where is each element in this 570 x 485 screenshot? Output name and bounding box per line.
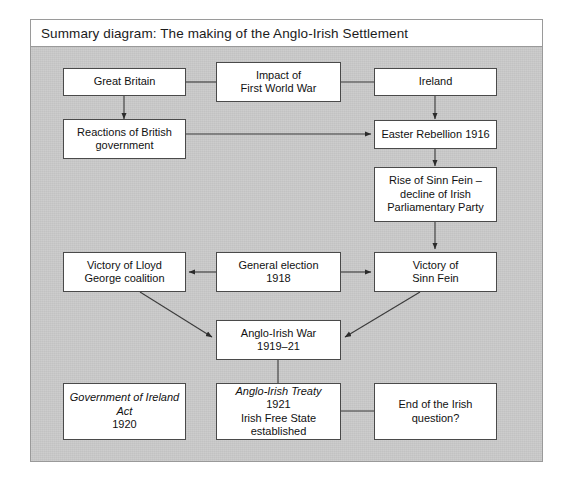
node-impact-first-world-war[interactable]: Impact of First World War — [216, 62, 341, 102]
node-goi-line1: Government of Ireland — [70, 391, 179, 405]
node-impact-line1: Impact of — [241, 69, 317, 83]
diagram-page: Summary diagram: The making of the Anglo… — [0, 0, 570, 485]
node-victory-of-lloyd-george-coalition[interactable]: Victory of Lloyd George coalition — [63, 252, 186, 292]
node-treaty-line2: Irish Free State — [236, 412, 322, 426]
node-question-line2: question? — [399, 412, 473, 426]
node-rise-line3: Parliamentary Party — [387, 201, 484, 215]
node-ireland-label: Ireland — [419, 75, 453, 89]
node-reactions-line1: Reactions of British — [77, 126, 172, 140]
node-impact-line2: First World War — [241, 82, 317, 96]
node-lloyd-line2: George coalition — [84, 272, 164, 286]
node-rise-line1: Rise of Sinn Fein – — [387, 174, 484, 188]
node-great-britain[interactable]: Great Britain — [63, 68, 186, 96]
node-victory-sf-line1: Victory of — [412, 259, 458, 273]
node-end-of-the-irish-question[interactable]: End of the Irish question? — [374, 383, 497, 440]
node-anglo-irish-war[interactable]: Anglo-Irish War 1919–21 — [216, 320, 341, 360]
node-goi-act-word: Act — [70, 405, 179, 419]
node-goi-year: 1920 — [70, 418, 179, 432]
node-general-election-1918[interactable]: General election 1918 — [216, 252, 341, 292]
node-anglo-irish-treaty-1921[interactable]: Anglo-Irish Treaty 1921 Irish Free State… — [216, 383, 341, 440]
node-treaty-line3: established — [236, 425, 322, 439]
node-victory-of-sinn-fein[interactable]: Victory of Sinn Fein — [374, 252, 497, 292]
node-treaty-title: Anglo-Irish Treaty — [236, 385, 322, 399]
node-rise-line2: decline of Irish — [387, 188, 484, 202]
node-war-line1: Anglo-Irish War — [241, 327, 316, 341]
node-question-line1: End of the Irish — [399, 398, 473, 412]
node-reactions-of-british-government[interactable]: Reactions of British government — [63, 119, 186, 159]
node-election-line1: General election — [238, 259, 318, 273]
node-rise-of-sinn-fein[interactable]: Rise of Sinn Fein – decline of Irish Par… — [374, 167, 497, 222]
node-ireland[interactable]: Ireland — [374, 68, 497, 96]
node-great-britain-label: Great Britain — [94, 75, 156, 89]
node-goi-line2: Act 1920 — [70, 405, 179, 432]
node-election-line2: 1918 — [238, 272, 318, 286]
node-war-line2: 1919–21 — [241, 340, 316, 354]
node-easter-rebellion-1916[interactable]: Easter Rebellion 1916 — [374, 120, 497, 149]
node-treaty-line1: Anglo-Irish Treaty 1921 — [236, 385, 322, 412]
node-treaty-year: 1921 — [236, 398, 322, 412]
node-reactions-line2: government — [77, 139, 172, 153]
node-layer: Great Britain Impact of First World War … — [0, 0, 570, 485]
node-victory-sf-line2: Sinn Fein — [412, 272, 458, 286]
node-easter-label: Easter Rebellion 1916 — [381, 128, 489, 142]
node-government-of-ireland-act-1920[interactable]: Government of Ireland Act 1920 — [63, 383, 186, 440]
node-lloyd-line1: Victory of Lloyd — [84, 259, 164, 273]
